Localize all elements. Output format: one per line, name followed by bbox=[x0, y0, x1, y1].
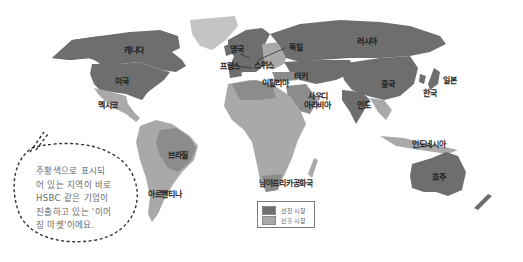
korea-region bbox=[419, 74, 426, 84]
label-france: 프랑스 bbox=[220, 63, 240, 71]
callout-text: 주황색으로 표시되 어 있는 지역이 바로 HSBC 같은 기업이 진출하고 있… bbox=[36, 165, 136, 233]
callout-line: 진출하고 있는 '이머 bbox=[36, 206, 136, 220]
label-switzerland: 스위스 bbox=[254, 62, 274, 70]
label-saudi-arabia-1: 사우디 bbox=[308, 93, 328, 101]
legend-swatch-developed bbox=[262, 206, 276, 215]
label-uk: 영국 bbox=[230, 46, 243, 54]
japan-region bbox=[428, 68, 440, 90]
label-indonesia: 인도네시아 bbox=[412, 141, 446, 149]
label-korea: 한국 bbox=[423, 90, 436, 98]
label-germany: 독일 bbox=[289, 44, 302, 52]
map-legend: 선진 시장 신흥 시장 bbox=[257, 201, 315, 228]
label-usa: 미국 bbox=[115, 78, 128, 86]
callout-pointer bbox=[30, 132, 48, 152]
label-argentina: 아르헨티나 bbox=[148, 191, 182, 199]
callout-line: 주황색으로 표시되 bbox=[36, 165, 136, 179]
label-australia: 호주 bbox=[432, 174, 445, 182]
alaska-region bbox=[52, 36, 100, 62]
callout-line: 어 있는 지역이 바로 bbox=[36, 179, 136, 193]
label-italy: 이탈리아 bbox=[262, 80, 289, 88]
madagascar-region bbox=[308, 158, 318, 178]
label-canada: 캐나다 bbox=[124, 47, 144, 55]
label-mexico: 멕시코 bbox=[98, 102, 118, 110]
label-china: 중국 bbox=[381, 81, 394, 89]
label-south-africa: 남아프리카공화국 bbox=[259, 180, 313, 188]
legend-item-emerging: 신흥 시장 bbox=[262, 216, 306, 224]
legend-label-developed: 선진 시장 bbox=[281, 206, 306, 215]
legend-label-emerging: 신흥 시장 bbox=[281, 216, 306, 225]
southeast-asia-region bbox=[370, 98, 392, 120]
label-saudi-arabia-2: 아라비아 bbox=[304, 102, 331, 110]
legend-item-developed: 선진 시장 bbox=[262, 206, 306, 214]
label-india: 인도 bbox=[357, 102, 370, 110]
label-russia: 러시아 bbox=[357, 38, 377, 46]
callout-line: HSBC 같은 기업이 bbox=[36, 192, 136, 206]
label-turkey: 터키 bbox=[294, 73, 307, 81]
label-brazil: 브라질 bbox=[168, 152, 188, 160]
legend-swatch-emerging bbox=[262, 216, 276, 225]
callout-line: 징 마켓'이에요. bbox=[36, 219, 136, 233]
new-zealand-region bbox=[474, 194, 492, 210]
label-japan: 일본 bbox=[443, 77, 456, 85]
